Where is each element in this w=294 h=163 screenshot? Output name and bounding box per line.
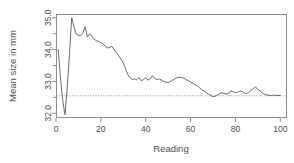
x-tick-label: 20 — [96, 124, 106, 134]
y-tick-label: 34.0 — [43, 41, 53, 58]
x-tick-label: 40 — [141, 124, 151, 134]
y-tick-label: 33.0 — [43, 73, 53, 90]
chart-container: 32.033.034.035.0 020406080100 Reading Me… — [0, 0, 294, 163]
y-tick-label: 32.0 — [43, 105, 53, 122]
x-tick-label: 0 — [54, 124, 59, 134]
y-axis-title: Mean size in mm — [7, 30, 18, 102]
x-axis-title: Reading — [153, 143, 188, 154]
x-tick-label: 60 — [186, 124, 196, 134]
line-chart: 32.033.034.035.0 020406080100 Reading Me… — [0, 0, 294, 163]
x-tick-label: 80 — [231, 124, 241, 134]
y-tick-label: 35.0 — [43, 9, 53, 26]
x-tick-label: 100 — [273, 124, 287, 134]
